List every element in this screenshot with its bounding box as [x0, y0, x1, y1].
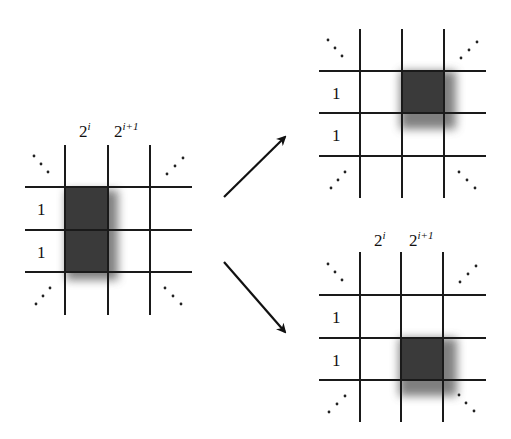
grid-top-right: 1 1	[319, 29, 486, 198]
row-label-1: 1	[37, 243, 46, 262]
shaded-block-br	[401, 338, 443, 380]
row-label-1: 1	[332, 351, 341, 370]
arrow-up-right	[224, 137, 285, 197]
row-label-1: 1	[37, 200, 46, 219]
grid-bottom-right: 2i 2i+1 1 1	[319, 229, 486, 422]
row-label-1: 1	[332, 126, 341, 145]
row-label-1: 1	[332, 308, 341, 327]
column-label-2i: 2i	[79, 120, 91, 141]
arrow-down-right	[224, 262, 285, 332]
grid-left: 2i 2i+1 1 1	[25, 120, 192, 315]
shaded-block-tr	[402, 71, 444, 113]
diagram-canvas: 2i 2i+1 1 1 1 1	[0, 0, 511, 439]
row-label-1: 1	[332, 84, 341, 103]
column-label-2i1: 2i+1	[114, 120, 138, 141]
column-label-2i1: 2i+1	[409, 229, 433, 250]
column-label-2i: 2i	[374, 229, 386, 250]
